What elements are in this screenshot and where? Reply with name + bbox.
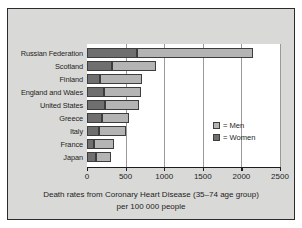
bar-row: Italy bbox=[87, 126, 126, 136]
category-label: United States bbox=[40, 100, 83, 109]
bar-segment-women bbox=[87, 87, 104, 97]
bar-segment-women bbox=[87, 113, 102, 123]
chart-figure: Russian FederationScotlandFinlandEngland… bbox=[7, 8, 295, 220]
chart-legend: = Men= Women bbox=[213, 120, 256, 144]
bar-row: Scotland bbox=[87, 61, 156, 71]
bar-segment-women bbox=[87, 100, 105, 110]
bar-segment-men bbox=[99, 126, 127, 136]
caption-line-1: Death rates from Coronary Heart Disease … bbox=[18, 189, 284, 201]
bar-segment-men bbox=[94, 139, 113, 149]
category-label: Greece bbox=[59, 114, 83, 123]
x-tick-0 bbox=[87, 167, 88, 171]
x-tick-1500 bbox=[203, 167, 204, 171]
x-tick-label: 1500 bbox=[194, 172, 212, 181]
bar-row: Japan bbox=[87, 152, 111, 162]
legend-item: = Men bbox=[213, 120, 256, 131]
category-label: Japan bbox=[63, 153, 83, 162]
bar-row: United States bbox=[87, 100, 139, 110]
category-label: Scotland bbox=[55, 61, 83, 70]
x-tick-2500 bbox=[280, 167, 281, 171]
x-tick-label: 2000 bbox=[232, 172, 250, 181]
bar-segment-women bbox=[87, 74, 100, 84]
category-label: Russian Federation bbox=[21, 48, 83, 57]
legend-item: = Women bbox=[213, 132, 256, 143]
bar-segment-women bbox=[87, 61, 112, 71]
bar-row: France bbox=[87, 139, 114, 149]
x-tick-label: 500 bbox=[119, 172, 132, 181]
x-tick-500 bbox=[126, 167, 127, 171]
bar-segment-men bbox=[102, 113, 130, 123]
legend-swatch-men bbox=[213, 122, 220, 129]
gridline-2000 bbox=[241, 44, 242, 167]
legend-swatch-women bbox=[213, 134, 220, 141]
bar-row: Greece bbox=[87, 113, 129, 123]
bar-row: England and Wales bbox=[87, 87, 141, 97]
x-tick-label: 0 bbox=[85, 172, 89, 181]
x-axis-line bbox=[87, 167, 280, 168]
legend-label: = Men bbox=[223, 121, 244, 130]
bar-segment-men bbox=[112, 61, 157, 71]
bar-row: Russian Federation bbox=[87, 48, 253, 58]
gridline-2500 bbox=[280, 44, 281, 167]
chart-caption: Death rates from Coronary Heart Disease … bbox=[18, 189, 284, 212]
bar-segment-men bbox=[96, 152, 111, 162]
gridline-1000 bbox=[164, 44, 165, 167]
category-label: France bbox=[61, 140, 83, 149]
legend-label: = Women bbox=[223, 133, 256, 142]
bar-segment-men bbox=[104, 87, 141, 97]
category-label: Italy bbox=[70, 127, 83, 136]
bar-segment-women bbox=[87, 48, 137, 58]
x-tick-2000 bbox=[241, 167, 242, 171]
category-label: Finland bbox=[59, 74, 83, 83]
bar-segment-men bbox=[100, 74, 142, 84]
bar-segment-women bbox=[87, 139, 94, 149]
plot-area: Russian FederationScotlandFinlandEngland… bbox=[87, 44, 280, 167]
bar-segment-men bbox=[137, 48, 253, 58]
bar-segment-women bbox=[87, 126, 99, 136]
bar-row: Finland bbox=[87, 74, 142, 84]
bar-segment-men bbox=[105, 100, 139, 110]
x-tick-label: 2500 bbox=[271, 172, 289, 181]
bar-segment-women bbox=[87, 152, 96, 162]
caption-line-2: per 100 000 people bbox=[18, 201, 284, 213]
gridline-1500 bbox=[203, 44, 204, 167]
x-tick-1000 bbox=[164, 167, 165, 171]
x-tick-label: 1000 bbox=[155, 172, 173, 181]
category-label: England and Wales bbox=[21, 87, 83, 96]
